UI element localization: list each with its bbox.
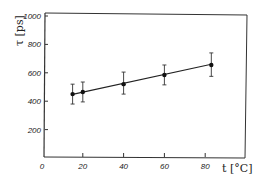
x-tick-label: 0 [40, 162, 45, 171]
y-tick-label: 800 [28, 40, 42, 49]
x-tick-label: 60 [160, 162, 169, 171]
plot-area [70, 53, 213, 104]
data-point [162, 65, 166, 85]
y-tick-label: 600 [28, 69, 42, 78]
x-axis-label: t [°C] [222, 162, 252, 175]
plot-frame [44, 13, 247, 158]
data-point [70, 84, 74, 104]
chart: 2004006008001000020406080 t [°C] τ [ps] [0, 0, 258, 188]
axis-ticks: 2004006008001000020406080 [23, 12, 210, 171]
y-tick-label: 200 [27, 126, 42, 135]
right-border [245, 15, 247, 158]
x-tick-label: 20 [77, 162, 87, 171]
data-point [209, 53, 213, 76]
data-point [81, 82, 85, 102]
fit-line [73, 64, 212, 94]
data-point [121, 72, 125, 94]
y-axis-label: τ [ps] [13, 15, 26, 46]
y-axis-line [44, 13, 45, 157]
y-tick-label: 400 [28, 97, 42, 106]
top-border [45, 13, 247, 15]
x-axis-line [44, 157, 245, 158]
x-tick-label: 40 [119, 162, 128, 171]
x-tick-label: 80 [201, 162, 210, 171]
